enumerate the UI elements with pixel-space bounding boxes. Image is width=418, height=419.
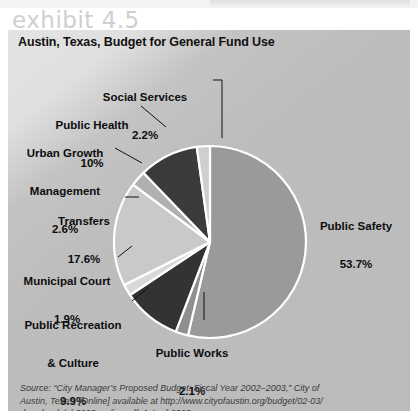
label-public-safety: Public Safety 53.7%: [308, 195, 404, 296]
source-line-3: downloads/ab0203_policy.pdf, 1 April 200…: [20, 407, 410, 411]
label-transfers-name: Transfers: [44, 215, 124, 228]
chart-panel-inner: Austin, Texas, Budget for General Fund U…: [8, 30, 410, 411]
exhibit-figure: exhibit 4.5 Austin, Texas, Budget for Ge…: [0, 0, 418, 419]
label-municipal-court-name: Municipal Court: [16, 275, 118, 288]
scan-smudge: [210, 0, 410, 7]
source-note: Source: “City Manager’s Proposed Budget:…: [20, 382, 410, 411]
label-public-works-name: Public Works: [146, 347, 238, 360]
label-public-recreation-name-line1: Public Recreation: [14, 319, 132, 332]
leader-line-social-services: [213, 80, 222, 138]
label-public-safety-value: 53.7%: [308, 258, 404, 271]
chart-panel: Austin, Texas, Budget for General Fund U…: [8, 30, 410, 411]
source-line-1: Source: “City Manager’s Proposed Budget:…: [20, 382, 410, 395]
label-public-safety-name: Public Safety: [308, 220, 404, 233]
label-public-recreation-name-line2: & Culture: [14, 357, 132, 370]
source-line-2: Austin, Texas, [Online] available at htt…: [20, 395, 410, 408]
pie-slice-group: [114, 146, 306, 338]
label-urban-growth-name-line1: Urban Growth: [16, 147, 114, 160]
